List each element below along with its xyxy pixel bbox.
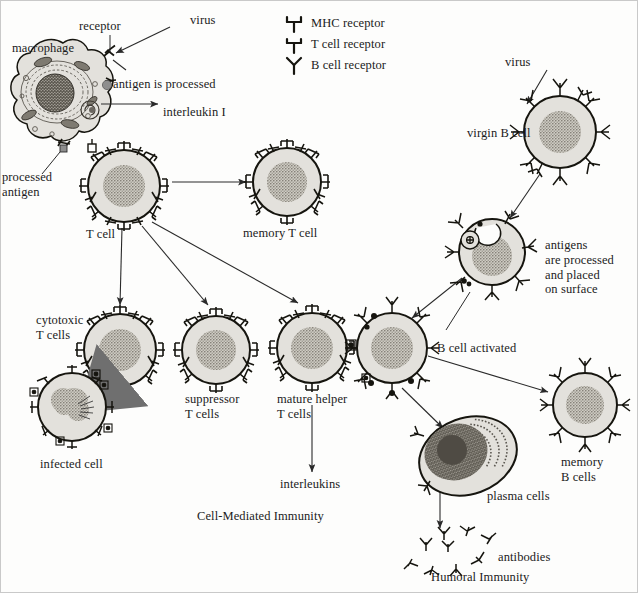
- label-cytotoxic-t-cells: cytotoxic T cells: [36, 313, 83, 343]
- legend-label-t-cell: T cell receptor: [311, 37, 385, 52]
- legend-item-t-cell: T cell receptor: [283, 34, 386, 55]
- mature-helper-t-cell: [268, 304, 356, 392]
- activated-b-cell: [345, 297, 439, 399]
- label-infected-cell: infected cell: [40, 457, 103, 472]
- label-antigens-processed-surface: antigens are processed and placed on sur…: [545, 238, 614, 297]
- label-memory-t-cell: memory T cell: [243, 226, 317, 241]
- memory-t-cell: [244, 139, 330, 225]
- label-suppressor-t-cells: suppressor T cells: [185, 392, 239, 422]
- memory-b-cell: [540, 358, 630, 452]
- label-antigen-is-processed: antigen is processed: [113, 77, 216, 92]
- label-b-cell-activated: B cell activated: [437, 341, 516, 356]
- label-virus-left: virus: [190, 13, 216, 28]
- legend-label-b-cell: B cell receptor: [311, 58, 386, 73]
- legend-item-mhc: MHC receptor: [283, 13, 386, 34]
- b-cell-receptor-icon: [283, 56, 305, 76]
- label-mature-helper-t-cells: mature helper T cells: [277, 392, 347, 422]
- legend-item-b-cell: B cell receptor: [283, 55, 386, 76]
- label-t-cell: T cell: [86, 227, 115, 242]
- t-cell: [79, 141, 169, 231]
- label-receptor: receptor: [79, 19, 121, 34]
- label-interleukin-one: interleukin I: [163, 105, 226, 120]
- label-humoral-immunity: Humoral Immunity: [431, 570, 529, 585]
- legend-label-mhc: MHC receptor: [311, 16, 385, 31]
- label-cell-mediated-immunity: Cell-Mediated Immunity: [197, 509, 324, 524]
- mhc-receptor-icon: [283, 14, 305, 34]
- processing-b-cell: [445, 211, 537, 300]
- label-plasma-cells: plasma cells: [487, 489, 550, 504]
- label-virus-right: virus: [505, 55, 531, 70]
- antibodies-cluster: [404, 526, 496, 576]
- label-macrophage: macrophage: [12, 41, 74, 56]
- label-memory-b-cells: memory B cells: [561, 455, 603, 485]
- macrophage-cell: [11, 39, 116, 152]
- label-interleukins: interleukins: [280, 477, 340, 492]
- suppressor-t-cell: [173, 307, 259, 393]
- t-cell-receptor-icon: [283, 35, 305, 55]
- label-processed-antigen: processed antigen: [2, 170, 52, 200]
- label-antibodies: antibodies: [498, 550, 550, 565]
- legend: MHC receptor T cell receptor B cell rece…: [283, 13, 386, 76]
- label-virgin-b-cell: virgin B cell: [467, 126, 531, 141]
